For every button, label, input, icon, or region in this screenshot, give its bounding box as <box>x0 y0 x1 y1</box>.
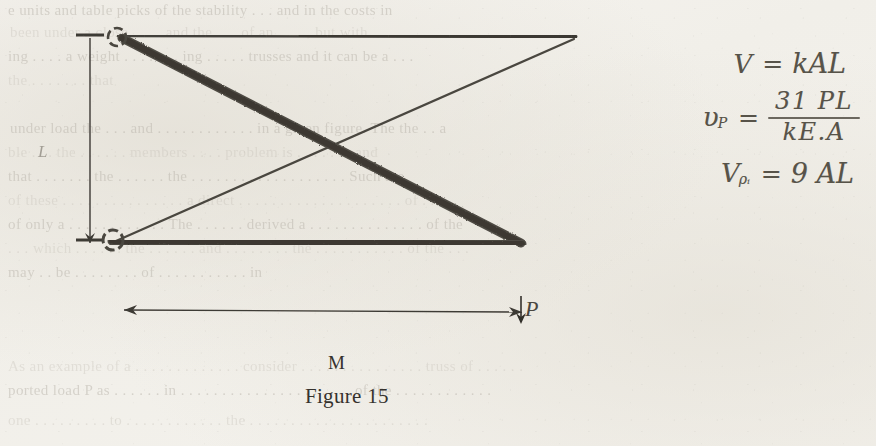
equation-deflection-subscript: P <box>718 115 727 131</box>
member-bottom-chord <box>112 241 522 244</box>
equation-deflection-numerator: 31 PL <box>771 89 857 115</box>
equation-deflection: υ P = 31 PL kE.A <box>596 89 860 146</box>
equation-volume-min-rhs: 9 AL <box>791 158 854 189</box>
equation-volume-relation: = <box>762 49 783 78</box>
span-dimension-label: M <box>328 352 345 374</box>
equation-volume-min-relation: = <box>761 159 782 188</box>
equation-volume: V = kAL <box>596 48 846 79</box>
equation-deflection-relation: = <box>738 103 759 132</box>
horizontal-span-dimension <box>124 305 522 317</box>
vertical-height-dimension <box>76 35 104 243</box>
equation-volume-min-subscript: ρᵢ <box>739 171 750 187</box>
equation-volume-rhs: kAL <box>792 48 846 79</box>
point-load-label: P <box>525 296 538 322</box>
fraction-bar <box>768 117 860 119</box>
equation-volume-lhs: V <box>733 49 753 79</box>
equation-volume-min: V ρᵢ = 9 AL <box>596 158 854 189</box>
scanned-figure-page: e units and table picks of the stability… <box>0 0 876 446</box>
member-top-chord <box>118 36 576 38</box>
figure-caption: Figure 15 <box>305 384 389 409</box>
equation-deflection-fraction: 31 PL kE.A <box>768 89 860 146</box>
height-dimension-label: L <box>38 142 47 162</box>
handwritten-equations-block: V = kAL υ P = 31 PL kE.A V ρᵢ = 9 AL <box>596 48 872 189</box>
equation-deflection-denominator: kE.A <box>778 120 849 146</box>
